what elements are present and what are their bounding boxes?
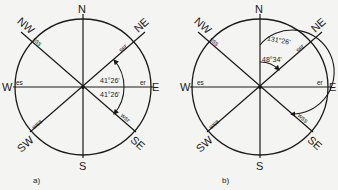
tick-sss: sss [32,35,44,47]
tick-es: es [197,79,205,86]
center-point [81,85,85,89]
compass-diagrams: N E S W NE NW SE SW ssr sss wsr wss er e… [0,0,338,190]
label-e: E [329,81,336,93]
label-ne: NE [132,15,151,34]
label-s: S [256,160,263,172]
label-se: SE [129,134,148,153]
angle-arc-outer [260,30,334,114]
tick-ssr: ssr [117,42,129,54]
tick-wss-sw: wss [207,117,221,131]
tick-ssr: ssr [294,42,306,54]
label-sw: SW [15,133,37,154]
tick-wss: wss [30,117,44,131]
label-s: S [79,160,86,172]
label-nw: NW [192,15,214,37]
angle-arc-inner [260,62,279,70]
tick-wsr: wsr [119,111,133,124]
angle-label-lower: 41°26' [100,91,120,98]
label-n: N [78,3,86,15]
caption-a: a) [33,176,40,185]
label-e: E [152,81,159,93]
label-w: W [180,81,191,93]
angle-label-inner: 48°34' [262,56,282,63]
center-point [258,85,262,89]
label-n: N [255,3,263,15]
angle-label-outer: 131°26' [267,35,291,46]
angle-label-upper: 41°26' [100,77,120,84]
tick-er: er [140,79,147,86]
tick-sss: sss [209,35,221,47]
diagram-a: N E S W NE NW SE SW ssr sss wsr wss er e… [2,3,159,185]
label-ne: NE [309,15,328,34]
label-sw: SW [194,133,216,154]
label-nw: NW [15,15,37,37]
label-w: W [2,81,13,93]
label-se: SE [306,134,325,153]
tick-es: es [16,79,24,86]
caption-b: b) [222,176,229,185]
tick-er: er [317,79,324,86]
diagram-b: N E S W NE NW SE SW ssr sss wss wss er e… [180,3,336,185]
